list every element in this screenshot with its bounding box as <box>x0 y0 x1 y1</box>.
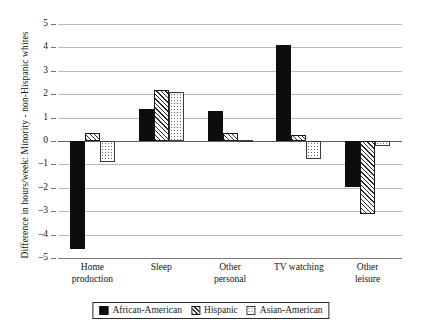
y-tick-label: –1 <box>39 160 49 170</box>
bar <box>208 111 223 141</box>
gridline-1 <box>58 118 402 119</box>
hatch-swatch <box>191 306 200 315</box>
y-tick-label: 5 <box>43 19 48 29</box>
y-tick-mark <box>51 47 56 48</box>
gridline-neg3 <box>58 211 402 212</box>
bar <box>169 92 184 141</box>
y-tick-mark <box>51 188 56 189</box>
gridline-5 <box>58 24 402 25</box>
chart-legend: African-AmericanHispanicAsian-American <box>92 302 329 319</box>
gridline-neg5 <box>58 258 402 259</box>
y-tick-mark <box>51 94 56 95</box>
bar <box>291 135 306 141</box>
bar <box>375 141 390 146</box>
x-axis-label-line: Other <box>214 262 246 274</box>
y-tick-mark <box>51 235 56 236</box>
x-axis-label-other-leisure: Other leisure <box>350 262 384 285</box>
x-axis-label-line: Home <box>72 262 113 274</box>
x-axis-label-line: production <box>72 274 113 286</box>
y-tick-label: 2 <box>43 89 48 99</box>
y-tick-label: –5 <box>39 253 49 263</box>
bar <box>100 141 115 162</box>
bar <box>154 90 169 141</box>
bar <box>238 140 253 142</box>
y-tick-label: –4 <box>39 230 49 240</box>
bar <box>360 141 375 214</box>
y-tick-mark <box>51 211 56 212</box>
y-tick-mark <box>51 71 56 72</box>
bar <box>345 141 360 187</box>
legend-label: African-American <box>112 305 182 315</box>
legend-item: Asian-American <box>247 305 323 315</box>
gridline-3 <box>58 71 402 72</box>
legend-label: Hispanic <box>204 305 238 315</box>
dotted-swatch <box>247 306 256 315</box>
solid-black-swatch <box>99 306 108 315</box>
x-axis-label-home-production: Homeproduction <box>72 262 113 285</box>
legend-item: Hispanic <box>191 305 238 315</box>
y-tick-mark <box>51 164 56 165</box>
bar-chart-figure: Difference in hours/week: Minority - non… <box>0 0 422 331</box>
gridline-2 <box>58 94 402 95</box>
x-axis-category-labels: HomeproductionSleepOtherpersonalTV watch… <box>58 262 402 296</box>
y-tick-label: –3 <box>39 206 49 216</box>
plot-area <box>58 24 402 258</box>
bar <box>276 45 291 141</box>
x-axis-label-line: personal <box>214 274 246 286</box>
y-tick-mark <box>51 24 56 25</box>
y-tick-label: 4 <box>43 43 48 53</box>
y-tick-mark <box>51 141 56 142</box>
x-axis-label-tv-watching: TV watching <box>274 262 324 274</box>
bar <box>306 141 321 159</box>
x-axis-label-sleep: Sleep <box>151 262 172 274</box>
y-axis-ticks: 543210–1–2–3–4–5 <box>0 24 56 258</box>
y-tick-mark <box>51 118 56 119</box>
gridline-neg4 <box>58 235 402 236</box>
bar <box>70 141 85 249</box>
gridline-4 <box>58 47 402 48</box>
y-tick-label: 3 <box>43 66 48 76</box>
bar <box>85 133 100 141</box>
gridline-neg2 <box>58 188 402 189</box>
bar <box>139 109 154 141</box>
y-tick-label: –2 <box>39 183 49 193</box>
x-axis-label-line: TV watching <box>274 262 324 274</box>
y-tick-label: 0 <box>43 136 48 146</box>
x-axis-label-line: Other leisure <box>350 262 384 285</box>
x-axis-label-other-personal: Otherpersonal <box>214 262 246 285</box>
legend-label: Asian-American <box>260 305 323 315</box>
bar <box>223 133 238 141</box>
legend-item: African-American <box>99 305 182 315</box>
x-axis-label-line: Sleep <box>151 262 172 274</box>
y-tick-mark <box>51 258 56 259</box>
y-tick-label: 1 <box>43 113 48 123</box>
